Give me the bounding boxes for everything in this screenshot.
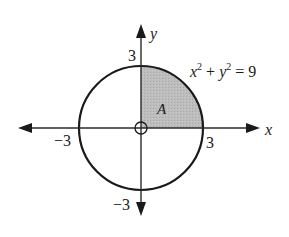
- x-axis-label: x: [264, 121, 272, 138]
- y-axis-label: y: [148, 25, 158, 43]
- tick-label-x-neg: −3: [54, 132, 71, 149]
- y-axis-up-arrow-icon: [136, 24, 146, 38]
- tick-label-y-neg: −3: [113, 196, 130, 213]
- tick-label-x-pos: 3: [206, 134, 214, 151]
- eq-plus: +: [202, 63, 219, 80]
- eq-equals: = 9: [231, 63, 256, 80]
- x-axis-right-arrow-icon: [246, 123, 260, 133]
- diagram-canvas: y x 3 3 −3 −3 A x2 + y2 = 9: [0, 0, 289, 237]
- circle-equation: x2 + y2 = 9: [189, 61, 256, 81]
- eq-x: x: [189, 63, 197, 80]
- tick-label-y-pos: 3: [128, 47, 136, 64]
- region-label: A: [156, 101, 167, 117]
- x-axis-left-arrow-icon: [18, 123, 32, 133]
- y-axis-down-arrow-icon: [136, 202, 146, 216]
